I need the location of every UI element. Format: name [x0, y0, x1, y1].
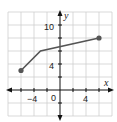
- y-axis-down-arrow-icon: [58, 115, 63, 121]
- x-tick-neg4: −4: [27, 94, 37, 104]
- y-axis: [58, 10, 63, 121]
- x-tick-4: 4: [83, 94, 88, 104]
- y-axis-up-arrow-icon: [58, 10, 63, 16]
- endpoint-left: [18, 68, 23, 73]
- x-axis-right-arrow-icon: [108, 88, 114, 93]
- x-tick-0: 0: [51, 93, 56, 103]
- x-axis-label: x: [103, 77, 109, 88]
- y-tick-4: 4: [49, 61, 54, 71]
- endpoint-right: [96, 35, 101, 40]
- y-axis-label: y: [63, 10, 69, 21]
- y-tick-10: 10: [44, 22, 54, 32]
- x-axis-left-arrow-icon: [6, 88, 12, 93]
- coordinate-plane: y x 10 4 −4 0 4: [0, 0, 117, 122]
